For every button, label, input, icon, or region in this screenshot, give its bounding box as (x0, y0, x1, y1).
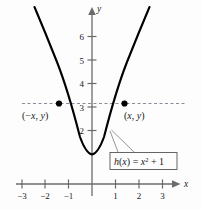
plot-background (0, 0, 201, 210)
x-tick-label--2: −2 (40, 191, 50, 201)
parabola-plot: −3 −2 −1 1 2 3 2 3 4 5 6 x y (−x, y) (x,… (0, 0, 201, 210)
point-right-positive-x (121, 100, 127, 106)
y-tick-label-4: 4 (80, 79, 85, 89)
point-left-label: (−x, y) (22, 110, 48, 122)
x-tick-label-3: 3 (160, 191, 165, 201)
graph-figure: −3 −2 −1 1 2 3 2 3 4 5 6 x y (−x, y) (x,… (0, 0, 201, 210)
x-tick-label--3: −3 (17, 191, 27, 201)
point-right-label: (x, y) (124, 110, 145, 122)
y-axis-label: y (96, 4, 102, 14)
y-tick-label-3: 3 (80, 103, 85, 113)
y-tick-label-5: 5 (80, 56, 85, 66)
x-axis-label: x (183, 179, 189, 189)
y-tick-label-6: 6 (80, 32, 85, 42)
x-tick-label-1: 1 (113, 191, 118, 201)
point-left-negative-x (56, 100, 62, 106)
x-tick-label-2: 2 (137, 191, 142, 201)
x-tick-label--1: −1 (64, 191, 74, 201)
equation-label: h(x) = x2 + 1 (114, 156, 164, 169)
